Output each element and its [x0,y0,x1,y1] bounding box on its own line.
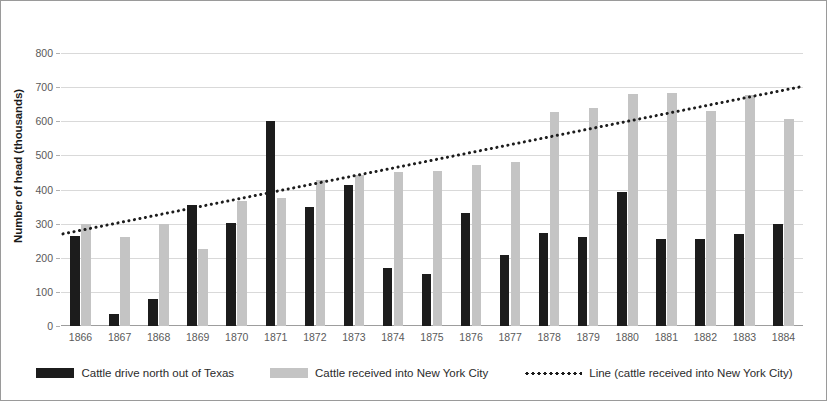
bar [578,237,588,326]
bar-group [764,53,803,326]
y-tick-mark [56,292,60,293]
bar [237,201,247,326]
y-tick-label: 700 [7,81,53,93]
bar [656,239,666,326]
x-tick-label: 1879 [577,331,600,343]
y-tick-mark [56,121,60,122]
bar-group [530,53,569,326]
y-tick-mark [56,258,60,259]
bar-group [178,53,217,326]
bar [120,237,130,326]
y-tick-label: 200 [7,252,53,264]
bar-group [412,53,451,326]
plot-area [61,53,803,326]
x-tick-label: 1871 [264,331,287,343]
y-tick-mark [56,87,60,88]
bar [277,198,287,326]
bar-group [452,53,491,326]
bar [198,249,208,326]
x-tick-label: 1878 [537,331,560,343]
bar [266,121,276,326]
bar [784,119,794,326]
bar [433,171,443,326]
bar [706,111,716,326]
y-tick-label: 600 [7,115,53,127]
bar-group [647,53,686,326]
y-tick-label: 400 [7,184,53,196]
bar [461,213,471,326]
bar-group [725,53,764,326]
bar [148,299,158,326]
y-tick-mark [56,224,60,225]
y-tick-mark [56,326,60,327]
legend-dotted-line-icon [524,368,582,378]
x-tick-label: 1873 [342,331,365,343]
bar-group [217,53,256,326]
bar-group [139,53,178,326]
bar [667,93,677,326]
y-tick-mark [56,155,60,156]
y-tick-label: 800 [7,47,53,59]
legend-label: Line (cattle received into New York City… [589,367,792,379]
y-tick-mark [56,190,60,191]
x-tick-label: 1872 [303,331,326,343]
bar [773,224,783,326]
bar-group [295,53,334,326]
bar [745,95,755,326]
bar-group [61,53,100,326]
bar [109,314,119,326]
chart-legend: Cattle drive north out of TexasCattle re… [1,367,827,379]
bar-group [686,53,725,326]
bar-group [608,53,647,326]
x-tick-label: 1876 [459,331,482,343]
bar [617,192,627,326]
bars-layer [61,53,803,326]
x-tick-label: 1877 [498,331,521,343]
legend-item[interactable]: Cattle received into New York City [270,367,488,379]
x-tick-label: 1884 [772,331,795,343]
x-tick-label: 1866 [69,331,92,343]
bar [187,205,197,326]
x-axis-tick-labels: 1866186718681869187018711872187318741875… [61,331,803,353]
bar [383,268,393,326]
bar [355,175,365,326]
bar-group [373,53,412,326]
x-tick-label: 1880 [616,331,639,343]
bar [226,223,236,326]
x-tick-label: 1883 [733,331,756,343]
bar-group [256,53,295,326]
x-tick-label: 1869 [186,331,209,343]
x-tick-label: 1870 [225,331,248,343]
legend-item[interactable]: Cattle drive north out of Texas [36,367,234,379]
y-tick-label: 500 [7,149,53,161]
bar-group [334,53,373,326]
bar-group [569,53,608,326]
bar [81,224,91,326]
bar [305,207,315,326]
bar [394,172,404,326]
y-tick-label: 0 [7,320,53,332]
legend-swatch-icon [270,368,308,378]
bar [550,112,560,326]
bar [734,234,744,326]
bar [695,239,705,326]
bar [344,185,354,326]
legend-label: Cattle drive north out of Texas [81,367,234,379]
legend-swatch-icon [36,368,74,378]
bar [511,162,521,326]
y-tick-mark [56,53,60,54]
x-tick-label: 1874 [381,331,404,343]
cattle-chart: Number of head (thousands) 0100200300400… [0,0,827,401]
bar [539,233,549,326]
bar [628,94,638,326]
x-tick-label: 1881 [655,331,678,343]
x-tick-label: 1867 [108,331,131,343]
bar [316,180,326,326]
legend-item[interactable]: Line (cattle received into New York City… [524,367,792,379]
x-tick-label: 1868 [147,331,170,343]
bar-group [100,53,139,326]
bar [159,224,169,326]
bar-group [491,53,530,326]
y-tick-label: 300 [7,218,53,230]
bar [70,236,80,326]
